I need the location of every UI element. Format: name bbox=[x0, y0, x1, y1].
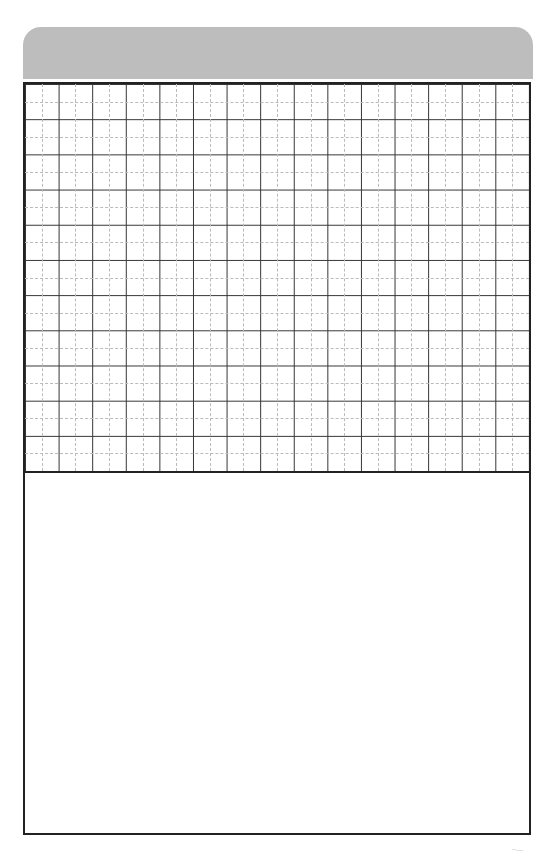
grid-dashed-horizontal bbox=[25, 137, 529, 138]
practice-sheet bbox=[23, 82, 531, 835]
grid-dashed-horizontal bbox=[25, 313, 529, 314]
grid-dashed-horizontal bbox=[25, 348, 529, 349]
blank-writing-area[interactable] bbox=[25, 473, 529, 833]
grid-dashed-horizontal bbox=[25, 242, 529, 243]
grid-dashed-horizontal bbox=[25, 278, 529, 279]
grid-dashed-horizontal bbox=[25, 172, 529, 173]
grid-dashed-horizontal bbox=[25, 383, 529, 384]
grid-dashed-horizontal bbox=[25, 207, 529, 208]
grid-dashed-horizontal bbox=[25, 418, 529, 419]
corner-mark: ~— bbox=[512, 846, 523, 852]
grid-dashed-horizontal bbox=[25, 102, 529, 103]
grid-dashed-horizontal bbox=[25, 453, 529, 454]
header-band bbox=[23, 27, 533, 79]
